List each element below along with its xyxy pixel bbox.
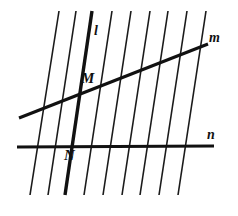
line-label-n: n: [207, 128, 215, 142]
parallel-line-2: [48, 11, 76, 195]
point-label-N: N: [64, 148, 75, 163]
point-label-M: M: [81, 71, 94, 86]
geometry-figure: l m n M N: [0, 0, 238, 216]
transversal-lines-group: [17, 44, 214, 147]
line-n: [17, 146, 214, 147]
figure-canvas: [0, 0, 238, 216]
line-label-l: l: [94, 24, 98, 38]
line-label-m: m: [209, 31, 220, 45]
